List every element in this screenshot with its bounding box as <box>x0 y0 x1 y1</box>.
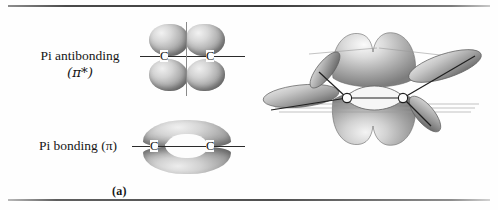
pi-antibonding-label-line1: Pi antibonding <box>40 48 119 63</box>
antibonding-lobe-bottom-left <box>149 59 188 91</box>
carbon-atom-right-antibonding: C <box>206 50 214 62</box>
carbon-nucleus-right <box>398 93 407 102</box>
carbon-atom-right-bonding: C <box>206 140 214 152</box>
bonding-bond-axis <box>156 146 213 147</box>
pi-antibonding-label: Pi antibonding (π*) <box>18 48 142 81</box>
panel-a: Pi antibonding (π*) Pi bonding (π) C C C… <box>0 8 249 198</box>
bottom-rule <box>8 199 490 201</box>
sp2-lobe-left-lower <box>262 81 340 111</box>
ethylene-orbital-diagram <box>249 8 498 198</box>
carbon-nucleus-left <box>342 93 351 102</box>
bonding-axis-right <box>213 146 245 147</box>
pi-cloud-top <box>332 33 415 87</box>
carbon-atom-left-bonding: C <box>150 140 158 152</box>
panel-a-caption: (a) <box>112 184 127 199</box>
panel-b: H H H H π π sp2 sp2 sp2 sp2 sp2 (b) <box>249 8 498 198</box>
top-rule <box>8 5 490 7</box>
pi-bonding-label-text: Pi bonding (π) <box>39 138 117 153</box>
nodal-plane-line <box>186 22 187 96</box>
sp2-lobe-right-upper <box>405 43 485 89</box>
carbon-atom-left-antibonding: C <box>160 50 168 62</box>
figure-container: Pi antibonding (π*) Pi bonding (π) C C C… <box>0 0 498 210</box>
pi-antibonding-label-line2: (π*) <box>67 64 93 80</box>
antibonding-lobe-bottom-right <box>186 59 225 91</box>
pi-bonding-label: Pi bonding (π) <box>14 138 142 154</box>
antibonding-axis-right <box>213 56 245 57</box>
antibonding-lobe-top-left <box>149 24 188 56</box>
